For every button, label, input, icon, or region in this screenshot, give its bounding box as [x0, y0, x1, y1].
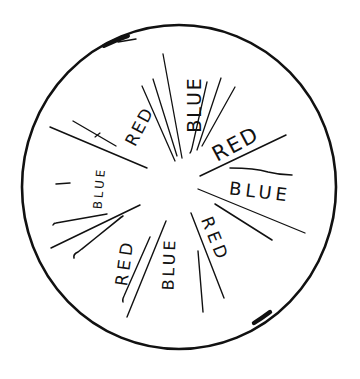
divider-tick [56, 183, 70, 184]
sector-label-blue-left: BLUE [92, 166, 108, 210]
divider-line [53, 214, 107, 225]
wheel-drawing [0, 0, 360, 379]
divider-curve [230, 168, 292, 175]
divider-line [198, 251, 203, 312]
sector-label-blue-bottom: BLUE [161, 237, 179, 290]
divider-line [73, 121, 116, 146]
divider-line [153, 79, 177, 156]
sector-label-blue-top: BLUE [185, 76, 204, 133]
